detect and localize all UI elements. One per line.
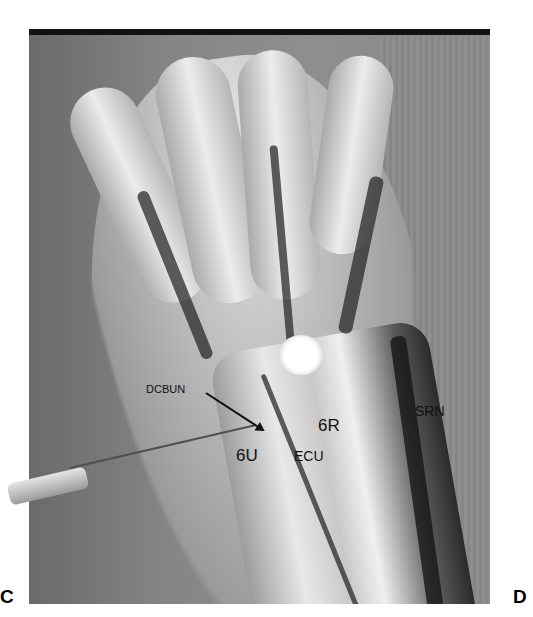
panel-letter-c: C (0, 586, 14, 608)
label-6u: 6U (236, 446, 258, 466)
dissection-photo (29, 29, 490, 604)
panel-letter-d: D (513, 586, 527, 608)
light-reflection (279, 335, 323, 375)
label-srn: SRN (415, 403, 445, 419)
label-ecu: ECU (294, 448, 324, 464)
label-dcbun: DCBUN (146, 383, 185, 395)
label-6r: 6R (318, 416, 340, 436)
